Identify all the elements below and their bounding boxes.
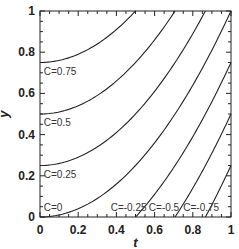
chart: C=0.75C=0.5C=0.25C=0C=-0.25C=-0.5C=-0.75… (0, 0, 239, 249)
x-tick-label: 0.2 (70, 223, 87, 237)
curve-label: C=0.75 (44, 66, 77, 77)
curve-C=-0.25 (136, 63, 232, 218)
curve-label: C=0.25 (44, 169, 77, 180)
x-tick-label: 1 (228, 223, 235, 237)
x-tick-label: 0.4 (108, 223, 125, 237)
curve-label: C=0.5 (44, 117, 71, 128)
y-tick-label: 0 (28, 210, 35, 224)
y-axis-label: y (0, 110, 11, 119)
x-tick-label: 0.8 (184, 223, 201, 237)
y-tick-label: 0.4 (18, 128, 35, 142)
curve-C=0.5 (40, 11, 175, 114)
curve-C=0.25 (40, 11, 205, 166)
y-tick-label: 0.2 (18, 169, 35, 183)
y-tick-label: 0.8 (18, 45, 35, 59)
y-tick-label: 1 (28, 4, 35, 18)
curve-label: C=0 (44, 202, 63, 213)
x-tick-label: 0.6 (146, 223, 163, 237)
x-tick-label: 0 (37, 223, 44, 237)
curve-label: C=-0.75 (183, 202, 219, 213)
y-tick-label: 0.6 (18, 86, 35, 100)
plot-area: C=0.75C=0.5C=0.25C=0C=-0.25C=-0.5C=-0.75… (0, 0, 239, 249)
curve-C=0.75 (40, 11, 136, 63)
x-axis-label: t (133, 235, 138, 249)
curve-label: C=-0.5 (149, 202, 180, 213)
curve-label: C=-0.25 (111, 202, 147, 213)
